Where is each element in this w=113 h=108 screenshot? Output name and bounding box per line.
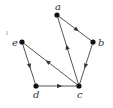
edge-c-a [57, 15, 79, 86]
arrowhead-icon [73, 27, 78, 32]
node-label-a: a [55, 1, 61, 12]
node-d [33, 83, 38, 88]
arrowhead-icon [27, 63, 31, 68]
node-label-d: d [33, 89, 39, 100]
arrows-group [27, 27, 88, 89]
node-label-b: b [98, 37, 104, 48]
node-c [76, 83, 81, 88]
node-label-e: e [12, 37, 18, 48]
node-label-c: c [77, 89, 83, 100]
node-a [54, 12, 59, 17]
arrowhead-icon [66, 45, 70, 50]
directed-graph: abcde ı [0, 0, 113, 108]
arrowhead-icon [57, 84, 62, 88]
edges-group [22, 15, 93, 86]
nodes-group [19, 12, 95, 88]
stray-mark: ı [6, 29, 9, 37]
node-e [19, 39, 24, 44]
arrowhead-icon [84, 63, 88, 68]
node-b [90, 39, 95, 44]
